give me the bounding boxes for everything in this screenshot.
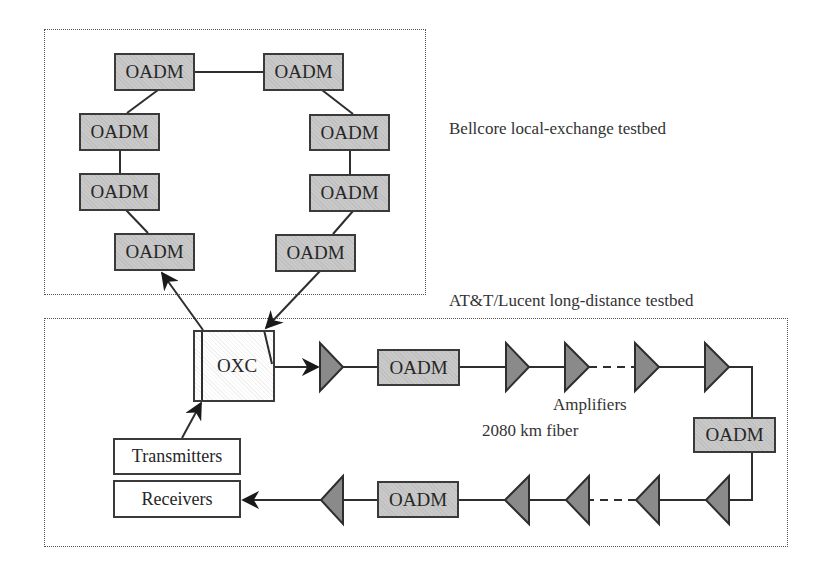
amplifier-icon [706, 476, 729, 524]
ring-oadm-node: OADM [263, 53, 344, 91]
receivers-box: Receivers [113, 480, 241, 518]
fiber-length-label: 2080 km fiber [482, 421, 578, 441]
amplifier-icon [505, 476, 529, 524]
amplifier-icon [566, 476, 589, 524]
amplifiers-label: Amplifiers [553, 395, 627, 415]
ring-oadm-node: OADM [309, 174, 390, 212]
amplifier-icon [635, 343, 659, 391]
amplifier-icon [320, 343, 343, 391]
amplifier-icon [321, 476, 343, 524]
line-oadm-node: OADM [377, 349, 460, 386]
ring-oadm-node: OADM [114, 53, 195, 91]
line-oadm-node: OADM [377, 481, 459, 518]
oxc-node: OXC [193, 330, 275, 402]
ring-oadm-node: OADM [275, 234, 356, 272]
transmitters-box: Transmitters [113, 438, 241, 475]
line-oadm-node: OADM [693, 417, 776, 453]
amplifier-icon [705, 343, 729, 391]
ring-oadm-node: OADM [79, 113, 160, 151]
testbed-diagram: Bellcore local-exchange testbed AT&T/Luc… [0, 0, 828, 580]
amplifier-icon [565, 343, 589, 391]
ring-oadm-node: OADM [309, 114, 390, 151]
amplifier-icon [506, 343, 529, 391]
ring-oadm-node: OADM [114, 233, 195, 271]
amplifier-icon [636, 476, 659, 524]
ring-oadm-node: OADM [79, 173, 160, 211]
